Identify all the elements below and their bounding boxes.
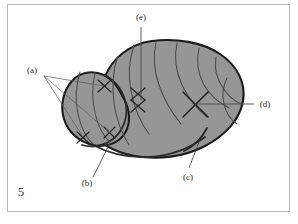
label-c: (c)	[183, 172, 193, 182]
figure-number: 5	[18, 184, 25, 199]
label-e: (e)	[136, 12, 146, 22]
label-d: (d)	[260, 99, 271, 109]
label-a: (a)	[27, 65, 37, 75]
label-b: (b)	[82, 178, 93, 188]
figure-root: (a) (b) (c) (d) (e) 5	[0, 0, 298, 224]
figure-illustration: (a) (b) (c) (d) (e) 5	[0, 0, 298, 224]
